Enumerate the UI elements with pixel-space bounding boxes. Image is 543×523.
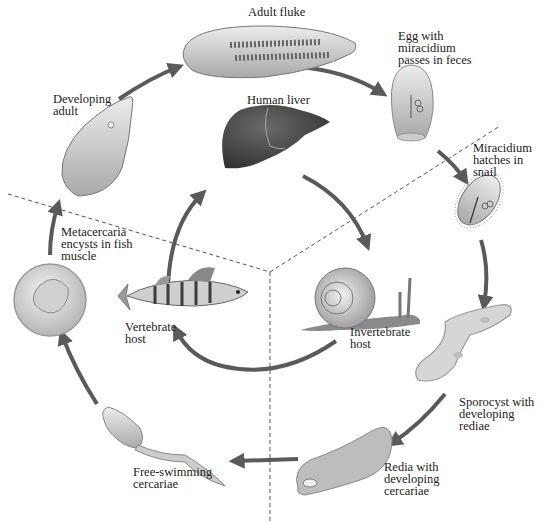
snail-illustration [300,268,420,331]
label-cercariae: Free-swimming cercariae [133,466,212,490]
redia-illustration [297,428,393,496]
label-developing-adult: Developing adult [53,93,111,117]
label-human-liver: Human liver [247,94,310,106]
sporocyst-illustration [416,305,512,381]
egg-illustration [391,65,433,141]
metacercaria-cyst-illustration [14,264,86,336]
fish-illustration [118,267,248,310]
label-miracidium: Miracidium hatches in snail [473,142,532,178]
label-invertebrate-host: Invertebrate host [350,326,410,350]
label-egg: Egg with miracidium passes in feces [398,30,472,66]
label-metacercaria: Metacercaria encysts in fish muscle [61,226,133,262]
label-sporocyst: Sporocyst with developing rediae [459,396,534,432]
label-adult-fluke: Adult fluke [248,6,305,18]
label-redia: Redia with developing cercariae [384,461,440,497]
human-liver-illustration [222,105,330,168]
label-vertebrate-host: Vertebrate host [125,321,176,345]
